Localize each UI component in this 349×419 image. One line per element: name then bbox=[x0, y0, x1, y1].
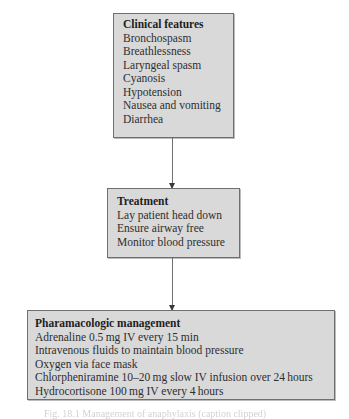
list-item: Monitor blood pressure bbox=[117, 236, 239, 250]
node-clinical-features: Clinical features Bronchospasm Breathles… bbox=[113, 13, 234, 138]
node-title: Pharamacologic management bbox=[35, 317, 334, 331]
list-item: Intravenous fluids to maintain blood pre… bbox=[35, 344, 334, 358]
figure-caption: Fig. 18.1 Management of anaphylaxis (cap… bbox=[44, 408, 266, 419]
edge-treatment-to-pharma bbox=[172, 258, 173, 310]
node-title: Treatment bbox=[117, 195, 239, 209]
list-item: Ensure airway free bbox=[117, 222, 239, 236]
list-item: Hypotension bbox=[123, 86, 233, 100]
node-treatment: Treatment Lay patient head down Ensure a… bbox=[107, 188, 240, 258]
list-item: Bronchospasm bbox=[123, 32, 233, 46]
edge-clinical-to-treatment bbox=[172, 138, 173, 188]
list-item: Breathlessness bbox=[123, 45, 233, 59]
list-item: Chlorpheniramine 10–20 mg slow IV infusi… bbox=[35, 371, 334, 385]
list-item: Diarrhea bbox=[123, 113, 233, 127]
list-item: Lay patient head down bbox=[117, 209, 239, 223]
node-title: Clinical features bbox=[123, 18, 233, 32]
list-item: Adrenaline 0.5 mg IV every 15 min bbox=[35, 331, 334, 345]
list-item: Oxygen via face mask bbox=[35, 358, 334, 372]
list-item: Laryngeal spasm bbox=[123, 59, 233, 73]
node-pharmacologic-management: Pharamacologic management Adrenaline 0.5… bbox=[27, 310, 335, 400]
list-item: Cyanosis bbox=[123, 72, 233, 86]
list-item: Hydrocortisone 100 mg IV every 4 hours bbox=[35, 385, 334, 399]
list-item: Nausea and vomiting bbox=[123, 99, 233, 113]
